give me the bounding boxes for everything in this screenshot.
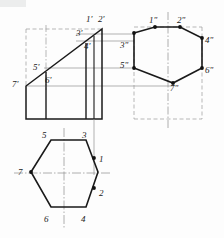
label-1: 1 — [99, 155, 104, 164]
side-view-group — [132, 12, 204, 128]
label-6pp: 6" — [205, 66, 213, 75]
label-3pp: 3" — [120, 41, 128, 50]
label-4pp: 4" — [205, 36, 213, 45]
label-7p: 7' — [12, 80, 18, 89]
label-5pp: 5" — [120, 61, 128, 70]
label-6p: 6' — [45, 76, 51, 85]
technical-drawing-svg — [0, 0, 224, 238]
drawing-canvas: 1' 2' 3' 4' 5' 6' 7' 1" 2" 3" 4" 5" 6" 7… — [0, 0, 224, 238]
label-4: 4 — [81, 215, 86, 224]
label-1pp: 1" — [149, 16, 157, 25]
label-5: 5 — [42, 131, 47, 140]
label-2pp: 2" — [177, 16, 185, 25]
label-3p: 3' — [76, 29, 82, 38]
label-7: 7 — [18, 168, 23, 177]
top-view-group — [14, 128, 112, 228]
label-3: 3 — [82, 131, 87, 140]
label-7pp: 7" — [170, 84, 178, 93]
label-4p: 4' — [84, 42, 90, 51]
front-view-outline — [26, 29, 102, 119]
label-2p: 2' — [98, 15, 104, 24]
top-view-hexagon — [31, 140, 98, 207]
front-view-group — [26, 25, 174, 175]
label-6: 6 — [44, 215, 49, 224]
label-5p: 5' — [33, 63, 39, 72]
label-1p: 1' — [86, 15, 92, 24]
label-2: 2 — [99, 189, 104, 198]
